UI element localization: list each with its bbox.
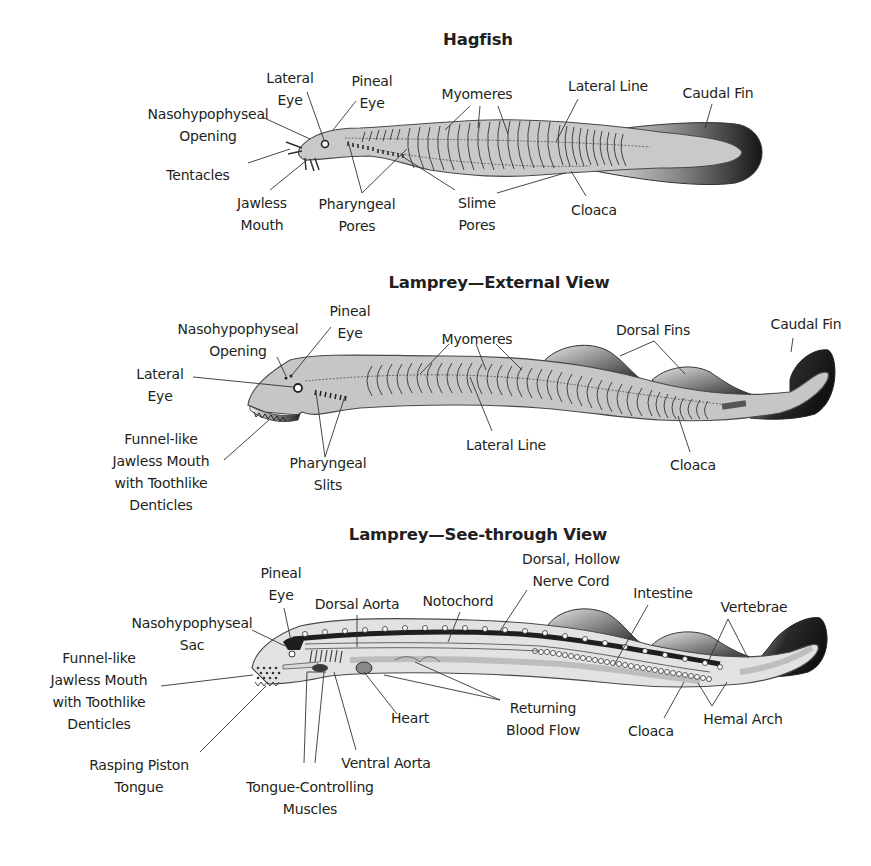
hagfish-label-slime-pores: SlimePores: [458, 192, 496, 236]
lamprey-st-label-hemal-arch: Hemal Arch: [703, 708, 782, 730]
lamprey-st-label-rasping-piston-tongue: Rasping PistonTongue: [89, 754, 189, 798]
hagfish-label-caudal-fin: Caudal Fin: [683, 82, 754, 104]
lamprey-hagfish-diagram: Hagfish LateralEye PinealEye Nasohypophy…: [0, 0, 871, 866]
lamprey-ext-label-nasohypophyseal-opening: NasohypophysealOpening: [178, 318, 299, 362]
lamprey-st-label-intestine: Intestine: [633, 582, 692, 604]
hagfish-label-pharyngeal-pores: PharyngealPores: [319, 193, 396, 237]
hagfish-label-tentacles: Tentacles: [166, 164, 229, 186]
lamprey-ext-label-lateral-eye: LateralEye: [136, 363, 183, 407]
lamprey-see-through-title: Lamprey—See-through View: [349, 525, 607, 544]
hagfish-illustration: [248, 92, 762, 196]
hagfish-label-cloaca: Cloaca: [571, 199, 617, 221]
lamprey-st-label-tongue-controlling-muscles: Tongue-ControllingMuscles: [246, 776, 374, 820]
hagfish-label-pineal-eye: PinealEye: [352, 70, 393, 114]
lamprey-ext-label-pineal-eye: PinealEye: [330, 300, 371, 344]
lamprey-st-label-ventral-aorta: Ventral Aorta: [341, 752, 430, 774]
lamprey-st-label-cloaca: Cloaca: [628, 720, 674, 742]
lamprey-st-label-pineal-eye: PinealEye: [261, 562, 302, 606]
lamprey-st-label-nasohypophyseal-sac: NasohypophysealSac: [132, 612, 253, 656]
lamprey-ext-label-dorsal-fins: Dorsal Fins: [616, 319, 690, 341]
hagfish-label-jawless-mouth: JawlessMouth: [237, 192, 287, 236]
lamprey-ext-label-pharyngeal-slits: PharyngealSlits: [290, 452, 367, 496]
lamprey-st-label-vertebrae: Vertebrae: [721, 596, 788, 618]
hagfish-label-nasohypophyseal-opening: NasohypophysealOpening: [148, 103, 269, 147]
lamprey-st-label-heart: Heart: [391, 707, 429, 729]
lamprey-ext-label-lateral-line: Lateral Line: [466, 434, 546, 456]
hagfish-label-myomeres: Myomeres: [442, 83, 513, 105]
hagfish-label-lateral-eye: LateralEye: [266, 67, 313, 111]
lamprey-st-label-returning-blood-flow: ReturningBlood Flow: [506, 697, 580, 741]
lamprey-st-label-dorsal-hollow-nerve-cord: Dorsal, HollowNerve Cord: [522, 548, 620, 592]
lamprey-ext-label-myomeres: Myomeres: [442, 328, 513, 350]
hagfish-title: Hagfish: [443, 30, 513, 49]
lamprey-st-label-funnel-mouth: Funnel-likeJawless Mouthwith ToothlikeDe…: [51, 647, 148, 735]
hagfish-label-lateral-line: Lateral Line: [568, 75, 648, 97]
lamprey-external-title: Lamprey—External View: [388, 273, 609, 292]
lamprey-ext-label-funnel-mouth: Funnel-likeJawless Mouthwith ToothlikeDe…: [113, 428, 210, 516]
lamprey-ext-label-cloaca: Cloaca: [670, 454, 716, 476]
lamprey-ext-label-caudal-fin: Caudal Fin: [771, 313, 842, 335]
lamprey-st-label-dorsal-aorta: Dorsal Aorta: [315, 593, 400, 615]
lamprey-st-label-notochord: Notochord: [423, 590, 494, 612]
